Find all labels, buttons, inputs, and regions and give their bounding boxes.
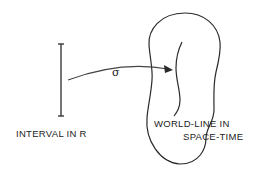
interval-label: INTERVAL IN R — [16, 128, 87, 139]
diagram-canvas — [0, 0, 260, 177]
sigma-label: σ — [112, 66, 120, 79]
worldline-label-line2: SPACE-TIME — [183, 131, 243, 142]
worldline-label-line1: WORLD-LINE IN — [154, 118, 230, 129]
arrowhead-icon — [164, 65, 173, 73]
interval-bar — [58, 44, 64, 116]
world-line — [174, 42, 182, 116]
